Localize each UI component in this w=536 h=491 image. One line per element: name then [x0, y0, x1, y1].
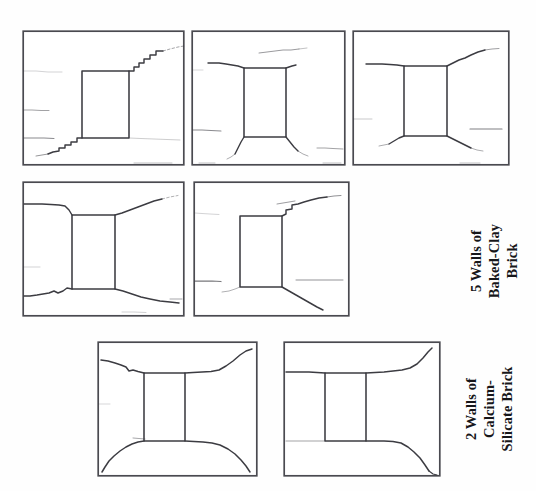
wall-outline — [284, 342, 440, 476]
panel-4-drawing — [22, 181, 185, 317]
panel-2-drawing — [191, 30, 346, 166]
wall-outline — [98, 342, 257, 476]
wall-outline — [194, 182, 349, 316]
wall-outline — [353, 31, 509, 165]
panel-5-drawing — [193, 181, 350, 317]
wall-crack-panel-3 — [352, 30, 510, 166]
panel-7-drawing — [283, 341, 441, 477]
wall-crack-panel-7 — [283, 341, 441, 477]
wall-crack-panel-5 — [193, 181, 350, 317]
wall-crack-panel-6 — [97, 341, 258, 477]
wall-crack-panel-1 — [22, 30, 185, 166]
wall-crack-panel-2 — [191, 30, 346, 166]
panel-1-drawing — [22, 30, 185, 166]
wall-outline — [23, 182, 184, 316]
wall-outline — [192, 31, 345, 165]
figure-root: 5 Walls of Baked-Clay Brick 2 Walls of C… — [0, 0, 536, 491]
panel-3-drawing — [352, 30, 510, 166]
group-label-calcium-silicate: 2 Walls of Calcium- Silicate Brick — [462, 324, 518, 491]
wall-crack-panel-4 — [22, 181, 185, 317]
panel-6-drawing — [97, 341, 258, 477]
group-label-baked-clay: 5 Walls of Baked-Clay Brick — [467, 186, 523, 336]
